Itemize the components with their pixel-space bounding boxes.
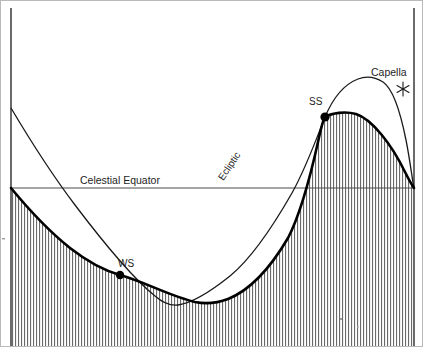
celestial-equator-label: Celestial Equator	[80, 174, 160, 186]
shaded-region-hatch	[11, 113, 414, 346]
winter-solstice-marker[interactable]	[116, 271, 124, 279]
scan-speck	[2, 238, 5, 239]
ecliptic-label: Ecliptic	[216, 150, 243, 182]
scan-speck	[357, 326, 359, 328]
scan-speck	[340, 318, 342, 320]
summer-solstice-label: SS	[309, 96, 323, 107]
celestial-sphere-diagram: Celestial Equator Ecliptic WS SS Capella	[0, 0, 425, 349]
diagram-root: Celestial Equator Ecliptic WS SS Capella	[0, 0, 425, 349]
winter-solstice-label: WS	[118, 258, 134, 269]
capella-label: Capella	[371, 66, 407, 78]
summer-solstice-marker[interactable]	[320, 112, 329, 121]
star-icon	[397, 82, 409, 96]
